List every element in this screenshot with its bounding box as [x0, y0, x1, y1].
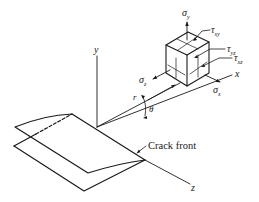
sigma-x-arrow	[205, 75, 220, 82]
z-axis-label: z	[190, 182, 195, 193]
r-label: r	[133, 92, 137, 102]
crack-tip-stress-diagram: y x z r θ σy σz	[0, 0, 259, 202]
x-axis	[97, 75, 232, 127]
hidden-edge-dashed	[36, 114, 72, 134]
theta-label: θ	[149, 104, 154, 114]
crack-body	[14, 114, 145, 191]
sigma-z-label: σz	[139, 74, 147, 87]
tau-yz-leader	[196, 49, 225, 57]
crack-front-pointer	[137, 146, 146, 153]
left-face-cross	[168, 58, 185, 78]
diagram-canvas: y x z r θ σy σz	[0, 0, 259, 202]
lower-crack-face	[14, 146, 145, 191]
sigma-y-label: σy	[182, 7, 190, 20]
tau-xy-leader	[195, 30, 210, 39]
tau-xz-label: τxz	[234, 52, 243, 65]
crack-front-label: Crack front	[148, 140, 196, 151]
polar-coords: r θ	[133, 85, 175, 119]
theta-arc	[143, 97, 146, 116]
r-arrow	[148, 85, 175, 100]
upper-crack-face	[15, 114, 145, 173]
crack-front-annotation: Crack front	[137, 140, 196, 153]
sigma-x-label: σx	[213, 84, 221, 97]
lower-face-edge-left	[14, 134, 36, 146]
tau-yz-arrowhead-icon	[194, 55, 198, 58]
x-axis-label: x	[234, 68, 240, 79]
theta-arrow-bottom-icon	[143, 116, 147, 119]
theta-arrow-top-icon	[141, 95, 145, 99]
tau-xy-label: τxy	[211, 24, 220, 37]
stress-element-cube	[166, 32, 209, 86]
tau-xz-leader	[203, 58, 232, 66]
z-axis	[145, 160, 190, 184]
radius-line	[97, 83, 180, 127]
y-axis-label: y	[93, 44, 99, 55]
